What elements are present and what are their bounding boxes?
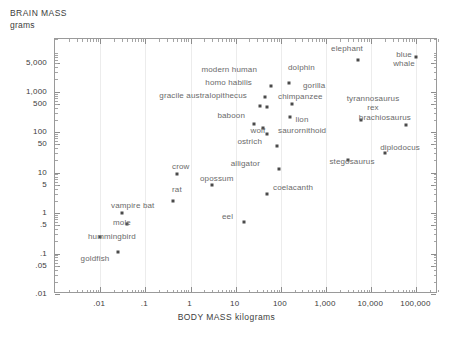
x-axis-minor-tick [188, 39, 189, 42]
x-axis-minor-tick [324, 290, 325, 293]
data-point [356, 59, 359, 62]
x-axis-minor-tick [302, 290, 303, 293]
x-axis-minor-tick [177, 290, 178, 293]
data-point [415, 56, 418, 59]
data-point-label: tyrannosaurusrex [347, 94, 400, 112]
data-point [171, 199, 174, 202]
y-axis-tick-label: .1 [0, 248, 47, 257]
y-axis-minor-tick [55, 94, 58, 95]
y-axis-tick [431, 132, 436, 133]
data-point-label: eel [222, 212, 233, 221]
y-axis-minor-tick [434, 94, 437, 95]
data-point-label: elephant [331, 44, 363, 53]
x-axis-minor-tick [271, 39, 272, 42]
x-axis-tick [371, 287, 372, 292]
x-axis-minor-tick [98, 290, 99, 293]
y-axis-minor-tick [434, 60, 437, 61]
x-axis-minor-tick [279, 290, 280, 293]
y-axis-minor-tick [434, 229, 437, 230]
y-axis-minor-tick [434, 101, 437, 102]
y-axis-minor-tick [434, 263, 437, 264]
x-axis-tick-label: 1,000 [315, 299, 336, 308]
x-axis-minor-tick [414, 290, 415, 293]
x-axis-minor-tick [90, 290, 91, 293]
y-axis-minor-tick [434, 241, 437, 242]
y-axis-minor-tick [434, 222, 437, 223]
data-point [242, 221, 245, 224]
x-axis-minor-tick [249, 39, 250, 42]
x-axis-minor-tick [340, 290, 341, 293]
x-axis-minor-tick [406, 39, 407, 42]
y-axis-minor-tick [434, 98, 437, 99]
data-point-label: hummingbird [88, 232, 136, 241]
x-axis-tick [145, 287, 146, 292]
x-axis-minor-tick [312, 290, 313, 293]
x-axis-minor-tick [122, 290, 123, 293]
data-point-label: lion [295, 115, 308, 124]
data-point-label: chimpanzee [278, 92, 323, 101]
x-axis-tick-label: 10 [230, 299, 239, 308]
y-axis-tick [431, 92, 436, 93]
x-axis-minor-tick [257, 39, 258, 42]
x-axis-minor-tick [69, 39, 70, 42]
x-axis-minor-tick [127, 39, 128, 42]
y-axis-minor-tick [55, 282, 58, 283]
x-axis-minor-tick [135, 39, 136, 42]
data-point-label: bluewhale [393, 50, 415, 68]
y-axis-minor-tick [434, 201, 437, 202]
x-axis-minor-tick [93, 39, 94, 42]
y-axis-minor-tick [55, 222, 58, 223]
y-axis-minor-tick [55, 148, 58, 149]
x-axis-tick [191, 287, 192, 292]
x-axis-minor-tick [141, 290, 142, 293]
y-axis-minor-tick [434, 257, 437, 258]
y-axis-minor-tick [55, 257, 58, 258]
x-axis-minor-tick [82, 39, 83, 42]
y-axis-minor-tick [434, 141, 437, 142]
x-axis-minor-tick [274, 39, 275, 42]
y-axis-tick-label: 100 [0, 127, 47, 136]
y-axis-minor-tick [55, 189, 58, 190]
x-axis-minor-tick [184, 290, 185, 293]
y-axis-tick-label: .05 [0, 260, 47, 269]
x-axis-tick-label: 10,000 [357, 299, 383, 308]
data-point [289, 115, 292, 118]
x-axis-minor-tick [226, 290, 227, 293]
data-point-label: modern human [201, 65, 257, 74]
x-axis-minor-tick [173, 290, 174, 293]
x-axis-minor-tick [77, 39, 78, 42]
x-axis-minor-tick [412, 290, 413, 293]
data-point [269, 84, 272, 87]
x-axis-minor-tick [212, 290, 213, 293]
data-point [211, 183, 214, 186]
y-axis-minor-tick [55, 225, 58, 226]
x-axis-tick [326, 287, 327, 292]
x-axis-minor-tick [403, 39, 404, 42]
y-axis-title: BRAIN MASS [10, 8, 67, 18]
x-axis-minor-tick [367, 39, 368, 42]
x-axis-minor-tick [234, 39, 235, 42]
x-axis-minor-tick [167, 290, 168, 293]
data-point-label: homo habilis [205, 78, 252, 87]
y-axis-minor-tick [434, 219, 437, 220]
y-axis-minor-tick [434, 185, 437, 186]
x-axis-minor-tick [141, 39, 142, 42]
y-axis-minor-tick [434, 134, 437, 135]
y-axis-tick [431, 173, 436, 174]
y-axis-minor-tick [434, 275, 437, 276]
x-axis-minor-tick [385, 39, 386, 42]
x-axis-minor-tick [353, 39, 354, 42]
x-axis-minor-tick [364, 39, 365, 42]
y-axis-minor-tick [55, 270, 58, 271]
x-axis-minor-tick [222, 39, 223, 42]
x-axis-minor-tick [430, 290, 431, 293]
y-axis-minor-tick [55, 174, 58, 175]
x-axis-minor-tick [348, 290, 349, 293]
x-axis-minor-tick [316, 39, 317, 42]
x-axis-minor-tick [186, 39, 187, 42]
y-axis-minor-tick [434, 266, 437, 267]
x-axis-minor-tick [138, 39, 139, 42]
y-axis-minor-tick [434, 182, 437, 183]
y-axis-tick-label: 500 [0, 98, 47, 107]
y-axis-minor-tick [434, 63, 437, 64]
